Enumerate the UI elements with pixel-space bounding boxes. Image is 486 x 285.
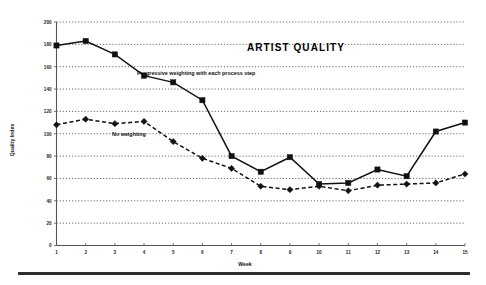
x-tick-label: 11 xyxy=(346,250,351,255)
data-point-square xyxy=(83,38,88,43)
x-tick-label: 3 xyxy=(114,250,117,255)
y-axis-title: Quality Index xyxy=(9,124,15,157)
data-point-square xyxy=(462,120,467,125)
data-point-square xyxy=(112,52,117,57)
data-point-square xyxy=(258,169,263,174)
data-point-square xyxy=(54,43,59,48)
x-tick-label: 1 xyxy=(55,250,58,255)
y-tick-label: 40 xyxy=(46,199,52,204)
data-point-square xyxy=(229,154,234,159)
data-point-square xyxy=(171,80,176,85)
annotation-progressive-weighting: Progressive weighting with each process … xyxy=(137,70,256,76)
y-tick-label: 100 xyxy=(44,132,52,137)
y-tick-label: 160 xyxy=(44,65,52,70)
data-point-square xyxy=(287,155,292,160)
x-tick-label: 7 xyxy=(230,250,233,255)
chart-figure: 020406080100120140160180200 123456789101… xyxy=(0,0,486,285)
y-tick-label: 0 xyxy=(49,243,52,248)
bottom-rule xyxy=(18,272,470,275)
x-axis-title: Week xyxy=(238,261,252,267)
x-tick-label: 15 xyxy=(462,250,468,255)
artist-quality-line-chart: 020406080100120140160180200 123456789101… xyxy=(0,0,486,285)
y-tick-label: 180 xyxy=(44,42,52,47)
x-tick-label: 10 xyxy=(317,250,323,255)
data-point-square xyxy=(433,129,438,134)
x-tick-label: 12 xyxy=(375,250,381,255)
y-tick-label: 120 xyxy=(44,109,52,114)
chart-title: ARTIST QUALITY xyxy=(247,42,345,53)
y-tick-label: 140 xyxy=(44,87,52,92)
x-tick-label: 4 xyxy=(143,250,146,255)
y-tick-label: 200 xyxy=(44,20,52,25)
data-point-square xyxy=(375,167,380,172)
annotation-no-weighting: No weighting xyxy=(112,131,146,137)
x-tick-label: 14 xyxy=(433,250,439,255)
y-tick-label: 20 xyxy=(46,221,52,226)
x-tick-label: 13 xyxy=(404,250,410,255)
x-tick-label: 9 xyxy=(289,250,292,255)
x-tick-label: 6 xyxy=(201,250,204,255)
data-point-square xyxy=(404,174,409,179)
x-tick-label: 2 xyxy=(84,250,87,255)
y-tick-label: 60 xyxy=(46,176,52,181)
data-point-square xyxy=(200,98,205,103)
x-tick-label: 8 xyxy=(259,250,262,255)
y-tick-label: 80 xyxy=(46,154,52,159)
data-point-square xyxy=(346,180,351,185)
x-tick-label: 5 xyxy=(172,250,175,255)
